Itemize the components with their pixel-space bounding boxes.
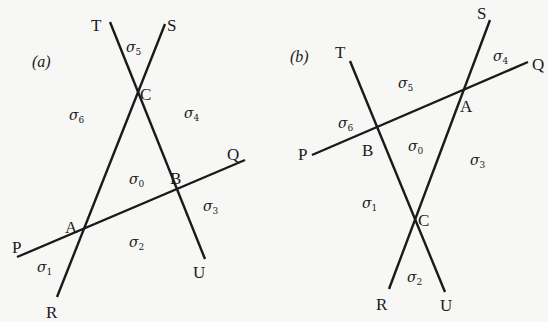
- point-label-T: T: [91, 16, 102, 35]
- region-label-sigma-5: σ5: [398, 75, 414, 93]
- point-label-U: U: [440, 296, 452, 315]
- region-label-sigma-3: σ3: [470, 152, 486, 170]
- point-label-Q: Q: [532, 55, 544, 74]
- panel-a: (a)TSCQBAPURσ5σ6σ4σ0σ3σ2σ1: [12, 16, 245, 322]
- point-label-R: R: [376, 295, 388, 314]
- point-label-A: A: [65, 218, 78, 237]
- region-label-sigma-3: σ3: [203, 198, 219, 216]
- region-label-sigma-2: σ2: [129, 234, 144, 252]
- figure-canvas: (a)TSCQBAPURσ5σ6σ4σ0σ3σ2σ1 (b)STQABPCRUσ…: [0, 0, 548, 322]
- line-RS: [57, 24, 165, 297]
- region-label-sigma-2: σ2: [407, 269, 422, 287]
- point-label-A: A: [460, 97, 473, 116]
- point-label-P: P: [298, 145, 307, 164]
- panel-label: (a): [32, 53, 51, 71]
- point-label-B: B: [170, 169, 181, 188]
- region-label-sigma-6: σ6: [69, 107, 85, 125]
- point-label-C: C: [140, 85, 151, 104]
- region-label-sigma-0: σ0: [408, 138, 424, 156]
- point-label-S: S: [167, 16, 176, 35]
- point-label-T: T: [335, 43, 346, 62]
- point-label-U: U: [193, 263, 205, 282]
- region-label-sigma-6: σ6: [338, 115, 354, 133]
- point-label-S: S: [477, 4, 486, 23]
- line-PQ: [312, 62, 528, 155]
- point-label-Q: Q: [227, 145, 239, 164]
- region-label-sigma-4: σ4: [184, 105, 200, 123]
- line-TU: [110, 22, 205, 259]
- point-label-B: B: [362, 141, 373, 160]
- region-label-sigma-0: σ0: [129, 171, 145, 189]
- point-label-C: C: [418, 211, 429, 230]
- region-label-sigma-1: σ1: [37, 259, 52, 277]
- region-label-sigma-5: σ5: [126, 39, 142, 57]
- panel-b: (b)STQABPCRUσ4σ5σ6σ0σ3σ1σ2: [290, 4, 544, 315]
- region-label-sigma-4: σ4: [493, 48, 509, 66]
- point-label-P: P: [12, 238, 21, 257]
- intersecting-lines-diagram: (a)TSCQBAPURσ5σ6σ4σ0σ3σ2σ1 (b)STQABPCRUσ…: [0, 0, 548, 322]
- point-label-R: R: [46, 303, 58, 322]
- region-label-sigma-1: σ1: [362, 195, 377, 213]
- panel-label: (b): [290, 48, 309, 66]
